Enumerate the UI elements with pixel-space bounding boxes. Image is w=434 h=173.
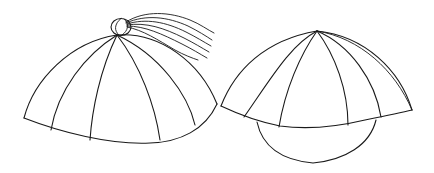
right-cap-seam xyxy=(317,31,348,125)
left-cap-seam xyxy=(117,35,160,140)
left-cap-rim xyxy=(24,104,217,143)
left-cap-seam xyxy=(90,35,117,140)
caps-drawing xyxy=(0,0,434,173)
right-cap-dome-outline xyxy=(221,31,412,110)
left-cap-knob-seam xyxy=(115,19,121,36)
right-cap xyxy=(221,31,412,163)
right-cap-seam xyxy=(317,31,412,110)
right-cap-seam xyxy=(317,31,381,117)
illustration-canvas xyxy=(0,0,434,173)
right-cap-seam xyxy=(244,31,317,117)
left-cap-seam xyxy=(117,35,195,125)
left-cap-seam xyxy=(51,35,117,130)
right-cap-band xyxy=(257,120,376,163)
left-cap xyxy=(24,14,217,144)
